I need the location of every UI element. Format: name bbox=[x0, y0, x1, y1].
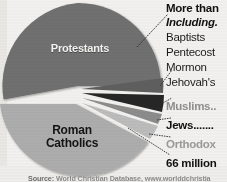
legend-item-muslims: Muslims.. bbox=[166, 101, 216, 113]
pie-label-roman-catholics-line2: Catholics bbox=[28, 137, 116, 150]
legend-item-orthodox: Orthodox bbox=[166, 139, 216, 151]
legend-item-jehovahs: Jehovah's bbox=[166, 77, 215, 89]
chart-figure: Protestants Roman Catholics More than In… bbox=[0, 0, 227, 182]
legend-item-including: Including. bbox=[166, 17, 218, 29]
pie-chart-graphic bbox=[0, 0, 175, 178]
legend-item-jews: Jews....... bbox=[166, 120, 214, 132]
legend-item-more-than: More than bbox=[166, 3, 219, 15]
pie-label-protestants: Protestants bbox=[34, 43, 126, 55]
legend-item-baptists: Baptists bbox=[166, 32, 205, 44]
pie-label-roman-catholics-line1: Roman bbox=[28, 124, 116, 137]
legend: More than Including. Baptists Pentecost … bbox=[166, 0, 227, 170]
legend-item-pentecostals: Pentecost bbox=[166, 47, 215, 59]
pie-label-roman-catholics: Roman Catholics bbox=[28, 124, 116, 149]
source-text: World Christian Database, www.worlddchri… bbox=[56, 174, 211, 182]
legend-item-mormon: Mormon bbox=[166, 62, 207, 74]
source-attribution: Source: World Christian Database, www.wo… bbox=[28, 174, 227, 182]
legend-item-66-million: 66 million bbox=[166, 158, 217, 170]
source-prefix: Source: bbox=[28, 174, 54, 182]
